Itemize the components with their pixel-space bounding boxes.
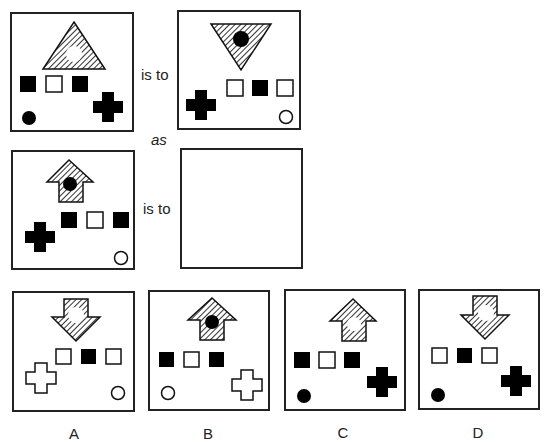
white-square (482, 348, 497, 363)
black-square (344, 352, 360, 368)
black-square (294, 352, 310, 368)
white-square (432, 348, 447, 363)
black-cross (25, 222, 55, 252)
black-circle (233, 31, 249, 47)
black-square (457, 348, 472, 363)
option-b-panel[interactable] (148, 290, 270, 411)
option-c-panel[interactable] (284, 289, 406, 411)
white-circle (68, 307, 84, 323)
option-c-label[interactable]: C (333, 424, 353, 441)
option-d-panel[interactable] (418, 289, 540, 410)
white-square (87, 212, 103, 228)
white-square (319, 352, 335, 368)
white-cross (232, 370, 262, 400)
option-d-label[interactable]: D (468, 424, 488, 441)
black-square (72, 76, 88, 92)
white-square (46, 76, 62, 92)
as-label: as (151, 131, 167, 148)
black-circle (297, 389, 311, 403)
is-to-label-2: is to (143, 200, 171, 217)
option-a-panel[interactable] (12, 291, 135, 412)
black-square (159, 352, 174, 367)
black-circle (22, 111, 36, 125)
black-square (61, 212, 77, 228)
white-square (106, 349, 121, 364)
white-circle (66, 46, 82, 62)
white-cross (26, 363, 56, 393)
black-circle (431, 388, 445, 402)
answer-box (180, 148, 303, 269)
white-circle (115, 252, 128, 265)
white-square (184, 352, 199, 367)
panel-c (11, 150, 135, 270)
white-circle (280, 111, 293, 124)
black-square (81, 349, 96, 364)
panel-b (177, 10, 301, 130)
black-cross (93, 92, 123, 122)
black-square (113, 212, 129, 228)
black-circle (63, 177, 77, 191)
panel-a (10, 12, 134, 132)
black-circle (205, 315, 219, 329)
black-square (209, 352, 224, 367)
white-circle (478, 305, 494, 321)
is-to-label-1: is to (141, 66, 169, 83)
option-b-label[interactable]: B (198, 425, 218, 442)
white-circle (162, 387, 175, 400)
white-circle (112, 387, 125, 400)
option-a-label[interactable]: A (64, 425, 84, 442)
black-cross (186, 90, 216, 120)
white-square (277, 80, 293, 96)
black-square (20, 76, 36, 92)
white-square (227, 80, 243, 96)
white-circle (347, 317, 361, 331)
black-square (252, 80, 268, 96)
black-cross (501, 366, 531, 396)
white-square (56, 349, 71, 364)
black-cross (367, 367, 397, 397)
